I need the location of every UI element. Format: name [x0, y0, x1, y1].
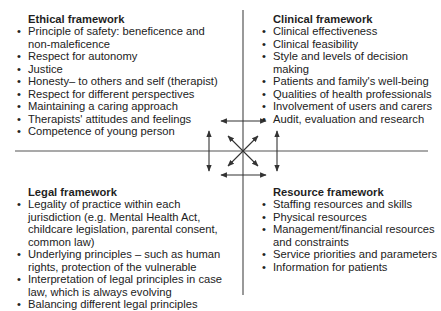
list-item: Principle of safety: beneficence and non…	[17, 25, 227, 50]
ethical-framework-list: Principle of safety: beneficence and non…	[17, 25, 227, 137]
resource-framework-list: Staffing resources and skills Physical r…	[262, 198, 440, 273]
resource-framework-quadrant: Resource framework Staffing resources an…	[262, 186, 440, 273]
list-item: Honesty– to others and self (therapist)	[17, 75, 227, 87]
list-item: Involvement of users and carers	[262, 100, 440, 112]
list-item: Qualities of health professionals	[262, 88, 440, 100]
list-item: Respect for autonomy	[17, 50, 227, 62]
list-item: Management/financial resources and const…	[262, 223, 440, 248]
list-item: Balancing different legal principles	[17, 298, 232, 310]
clinical-framework-quadrant: Clinical framework Clinical effectivenes…	[262, 13, 440, 125]
diagonal-arrow-se-icon	[243, 151, 258, 166]
legal-framework-list: Legality of practice within each jurisdi…	[17, 198, 232, 310]
clinical-framework-title: Clinical framework	[262, 13, 440, 25]
diagonal-arrow-ne-icon	[243, 136, 258, 151]
list-item: Style and levels of decision making	[262, 50, 440, 75]
resource-framework-title: Resource framework	[262, 186, 440, 198]
list-item: Therapists' attitudes and feelings	[17, 113, 227, 125]
list-item: Competence of young person	[17, 125, 227, 137]
legal-framework-quadrant: Legal framework Legality of practice wit…	[17, 186, 232, 311]
list-item: Information for patients	[262, 261, 440, 273]
diagonal-arrow-nw-icon	[228, 136, 243, 151]
clinical-framework-list: Clinical effectiveness Clinical feasibil…	[262, 25, 440, 125]
legal-framework-title: Legal framework	[17, 186, 232, 198]
ethical-framework-quadrant: Ethical framework Principle of safety: b…	[17, 13, 227, 138]
list-item: Service priorities and parameters	[262, 248, 440, 260]
list-item: Patients and family's well-being	[262, 75, 440, 87]
list-item: Justice	[17, 63, 227, 75]
list-item: Legality of practice within each jurisdi…	[17, 198, 232, 248]
list-item: Maintaining a caring approach	[17, 100, 227, 112]
list-item: Respect for different perspectives	[17, 88, 227, 100]
list-item: Audit, evaluation and research	[262, 113, 440, 125]
list-item: Clinical effectiveness	[262, 25, 440, 37]
list-item: Interpretation of legal principles in ca…	[17, 273, 232, 298]
list-item: Physical resources	[262, 211, 440, 223]
list-item: Underlying principles – such as human ri…	[17, 248, 232, 273]
diagonal-arrow-sw-icon	[228, 151, 243, 166]
ethical-framework-title: Ethical framework	[17, 13, 227, 25]
list-item: Staffing resources and skills	[262, 198, 440, 210]
list-item: Clinical feasibility	[262, 38, 440, 50]
